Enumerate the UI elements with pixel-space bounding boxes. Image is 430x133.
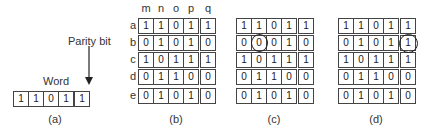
grid-cell: 1 xyxy=(200,52,216,68)
grid-cell: 0 xyxy=(138,88,154,104)
grid-cell: 0 xyxy=(236,69,252,85)
column-label-p: p xyxy=(183,2,199,14)
grid-cell: 1 xyxy=(153,88,169,104)
grid-cell: 0 xyxy=(183,69,199,85)
grid-cell: 1 xyxy=(353,88,369,104)
row-label-c: c xyxy=(128,53,138,65)
grid-cell: 1 xyxy=(183,18,199,34)
grid-cell: 0 xyxy=(200,69,216,85)
grid-cell: 1 xyxy=(400,52,416,68)
grid-cell: 1 xyxy=(338,18,354,34)
grid-cell: 0 xyxy=(168,18,184,34)
grid-cell: 1 xyxy=(153,69,169,85)
row-label-a: a xyxy=(128,19,138,31)
grid-cell: 0 xyxy=(383,69,399,85)
grid-cell: 0 xyxy=(138,69,154,85)
grid-cell: 0 xyxy=(251,52,267,68)
grid-cell: 1 xyxy=(200,18,216,34)
grid-cell: 1 xyxy=(138,18,154,34)
grid-cell: 0 xyxy=(200,35,216,51)
grid-cell: 1 xyxy=(266,69,282,85)
grid-cell: 0 xyxy=(153,52,169,68)
grid-cell: 1 xyxy=(281,52,297,68)
word-bit: 1 xyxy=(28,91,44,107)
caption-b: (b) xyxy=(161,113,191,125)
grid-cell: 0 xyxy=(281,69,297,85)
grid-cell: 1 xyxy=(368,52,384,68)
grid-cell: 1 xyxy=(153,18,169,34)
grid-cell: 1 xyxy=(236,52,252,68)
grid-cell: 1 xyxy=(266,52,282,68)
column-label-m: m xyxy=(138,2,154,14)
grid-cell: 1 xyxy=(368,69,384,85)
grid-cell: 1 xyxy=(298,52,314,68)
grid-cell: 1 xyxy=(281,88,297,104)
grid-cell: 1 xyxy=(353,35,369,51)
grid-cell: 1 xyxy=(251,18,267,34)
grid-cell: 0 xyxy=(368,88,384,104)
grid-cell: 1 xyxy=(383,52,399,68)
column-label-n: n xyxy=(153,2,169,14)
grid-cell: 0 xyxy=(368,35,384,51)
caption-c: (c) xyxy=(259,113,289,125)
figure-a: Parity bit Word 1 1 0 1 1 (a) xyxy=(0,0,120,133)
grid-cell: 1 xyxy=(183,52,199,68)
grid-cell: 0 xyxy=(298,69,314,85)
grid-cell: 1 xyxy=(251,69,267,85)
grid-cell: 0 xyxy=(400,69,416,85)
grid-cell: 1 xyxy=(298,18,314,34)
grid-cell: 1 xyxy=(168,52,184,68)
grid-cell: 0 xyxy=(236,88,252,104)
grid-cell: 0 xyxy=(338,88,354,104)
grid-cell: 1 xyxy=(383,18,399,34)
grid-cell: 1 xyxy=(153,35,169,51)
grid-cell: 0 xyxy=(236,35,252,51)
grid-cell: 0 xyxy=(298,88,314,104)
row-label-b: b xyxy=(128,36,138,48)
parity-bit: 1 xyxy=(74,91,90,107)
grid-cell: 0 xyxy=(298,35,314,51)
grid-cell: 0 xyxy=(353,52,369,68)
grid-cell: 0 xyxy=(266,88,282,104)
caption-a: (a) xyxy=(40,113,70,125)
word-bit: 0 xyxy=(43,91,59,107)
grid-cell: 1 xyxy=(353,18,369,34)
word-bit: 1 xyxy=(13,91,29,107)
grid-cell: 0 xyxy=(200,88,216,104)
grid-cell: 1 xyxy=(183,35,199,51)
grid-cell: 0 xyxy=(400,88,416,104)
error-circle-icon xyxy=(399,34,418,53)
grid-cell: 1 xyxy=(281,35,297,51)
grid-cell: 0 xyxy=(138,35,154,51)
word-label: Word xyxy=(43,75,69,87)
grid-cell: 0 xyxy=(368,18,384,34)
grid-cell: 0 xyxy=(338,35,354,51)
column-label-q: q xyxy=(200,2,216,14)
grid-cell: 0 xyxy=(338,69,354,85)
grid-cell: 1 xyxy=(251,88,267,104)
grid-cell: 0 xyxy=(266,18,282,34)
grid-cell: 1 xyxy=(338,52,354,68)
grid-cell: 1 xyxy=(168,69,184,85)
figure-d: 1 1 0 1 1 0 1 0 1 1 1 0 1 1 1 0 1 1 0 0 … xyxy=(338,0,430,133)
grid-cell: 1 xyxy=(383,35,399,51)
grid-cell: 0 xyxy=(266,35,282,51)
grid-cell: 0 xyxy=(168,88,184,104)
grid-cell: 1 xyxy=(353,69,369,85)
word-bit: 1 xyxy=(58,91,74,107)
grid-cell: 1 xyxy=(400,18,416,34)
grid-cell: 1 xyxy=(383,88,399,104)
caption-d: (d) xyxy=(361,113,391,125)
row-label-d: d xyxy=(128,70,138,82)
grid-cell: 1 xyxy=(236,18,252,34)
arrow-down-icon xyxy=(84,46,94,86)
grid-cell: 0 xyxy=(168,35,184,51)
column-label-o: o xyxy=(168,2,184,14)
figure-b: m n o p q a b c d e 1 1 0 1 1 0 1 0 1 0 … xyxy=(128,0,228,133)
grid-cell: 1 xyxy=(183,88,199,104)
grid-cell: 1 xyxy=(138,52,154,68)
error-circle-icon xyxy=(251,34,268,52)
figure-c: 1 1 0 1 1 0 0 0 1 0 1 0 1 1 1 0 1 1 0 0 … xyxy=(236,0,336,133)
row-label-e: e xyxy=(128,89,138,101)
grid-cell: 1 xyxy=(281,18,297,34)
